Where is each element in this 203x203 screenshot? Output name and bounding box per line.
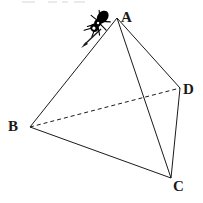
edge-BD — [30, 88, 180, 127]
vertex-label-b: B — [8, 119, 18, 134]
edge-BC — [30, 127, 171, 178]
vertex-label-c: C — [173, 179, 184, 194]
edge-AB — [30, 18, 117, 127]
edge-CD — [171, 88, 180, 178]
edge-AD — [117, 18, 180, 88]
vertex-label-d: D — [183, 82, 194, 97]
vertex-label-a: A — [121, 10, 132, 25]
tetrahedron-diagram — [0, 0, 203, 203]
arrow-icon — [81, 29, 101, 48]
edge-AC — [117, 18, 171, 178]
ant-icon — [81, 5, 116, 41]
tetrahedron-figure: A B C D — [0, 0, 203, 203]
